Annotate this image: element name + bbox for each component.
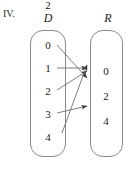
domain-element-2: 2 bbox=[41, 0, 55, 11]
mapping-diagram-figure: IV. D R 0 1 2 2 3 4 0 2 4 bbox=[0, 0, 134, 171]
domain-element-3: 3 bbox=[41, 109, 55, 120]
domain-element-0: 0 bbox=[41, 40, 55, 51]
domain-set-title: D bbox=[38, 11, 58, 26]
range-element-2: 2 bbox=[99, 91, 113, 102]
figure-label: IV. bbox=[3, 8, 15, 19]
domain-element-2b: 2 bbox=[41, 86, 55, 97]
range-set-title: R bbox=[98, 11, 118, 26]
range-element-4: 4 bbox=[99, 116, 113, 127]
range-element-0: 0 bbox=[99, 66, 113, 77]
domain-element-1: 1 bbox=[41, 63, 55, 74]
domain-element-4: 4 bbox=[41, 132, 55, 143]
